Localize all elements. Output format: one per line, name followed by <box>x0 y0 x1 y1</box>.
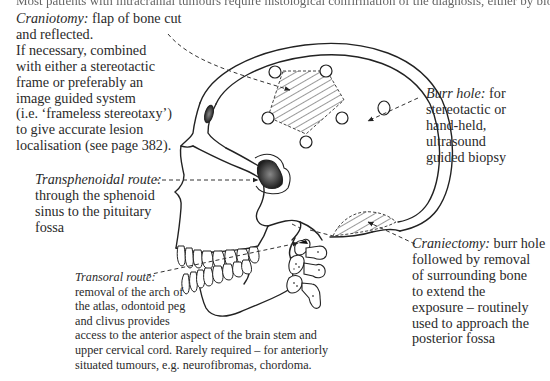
burr-hole-term: Burr hole: <box>426 85 486 101</box>
craniectomy-leader <box>368 222 415 244</box>
craniectomy-term: Craniectomy: <box>412 235 490 251</box>
craniectomy-label: Craniectomy: burr hole followed by remov… <box>412 236 548 347</box>
burr-hole <box>378 101 390 115</box>
craniotomy-label: Craniotomy: flap of bone cut and reflect… <box>16 11 196 154</box>
transoral-term: Transoral route: <box>75 270 335 285</box>
craniectomy-region <box>333 212 396 236</box>
sphenoid-sinus <box>258 160 283 188</box>
transphenoidal-term: Transphenoidal route: <box>35 172 195 188</box>
transoral-label: Transoral route: removal of the arch of … <box>75 270 335 372</box>
burr-hole-label: Burr hole: for stereotactic or hand-held… <box>426 86 546 166</box>
transphenoidal-label: Transphenoidal route: through the spheno… <box>35 172 195 236</box>
burr-hole-leader <box>368 98 418 121</box>
craniotomy-term: Craniotomy: <box>16 10 89 26</box>
craniotomy-flap <box>268 71 344 134</box>
frontal-sinus <box>203 104 215 123</box>
